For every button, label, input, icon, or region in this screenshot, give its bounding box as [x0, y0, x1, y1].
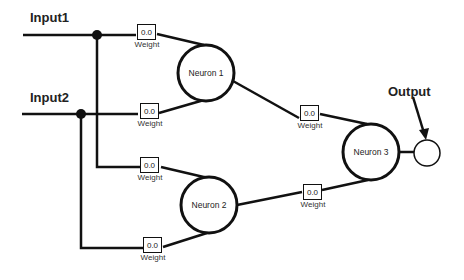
weight-3-input[interactable]: 0.0 [140, 157, 159, 173]
neuron-1-label: Neuron 1 [189, 68, 224, 78]
weight-5-input[interactable]: 0.0 [300, 105, 319, 121]
input2-junction-dot [76, 109, 86, 119]
input1-junction-dot [92, 30, 102, 40]
weight-4-input[interactable]: 0.0 [143, 237, 162, 253]
weight-5-label: Weight [298, 121, 323, 130]
neuron-2-label: Neuron 2 [192, 200, 227, 210]
neuron-3-label: Neuron 3 [354, 147, 389, 157]
input1-label: Input1 [30, 10, 69, 25]
weight-1-input[interactable]: 0.0 [137, 24, 156, 40]
weight-1-label: Weight [135, 40, 160, 49]
network-wires [0, 0, 464, 280]
input2-label: Input2 [30, 90, 69, 105]
weight-6-input[interactable]: 0.0 [303, 184, 322, 200]
output-label: Output [388, 84, 431, 99]
weight-6-label: Weight [301, 200, 326, 209]
output-node [414, 140, 440, 166]
weight-4-label: Weight [141, 253, 166, 262]
weight-3-label: Weight [138, 173, 163, 182]
weight-2-label: Weight [138, 119, 163, 128]
weight-2-input[interactable]: 0.0 [140, 103, 159, 119]
output-arrowhead [419, 128, 429, 140]
